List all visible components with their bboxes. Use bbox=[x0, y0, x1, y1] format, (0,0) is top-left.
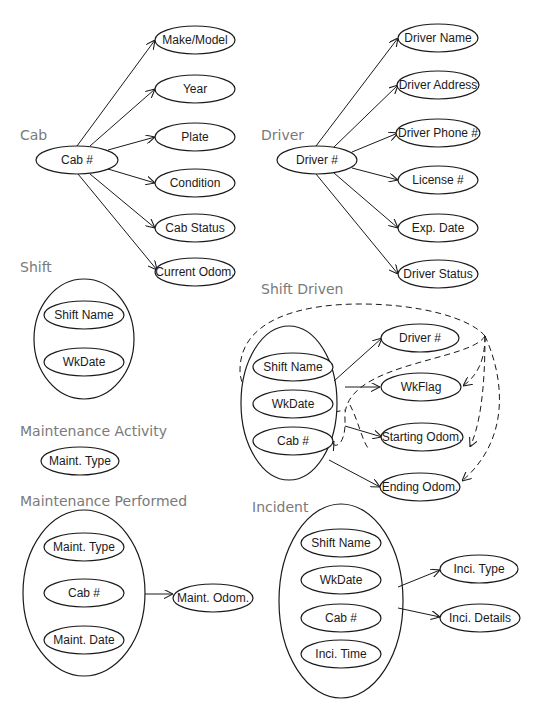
attr-label: Inci. Details bbox=[449, 611, 511, 625]
cab-attr-node: Cab Status bbox=[155, 214, 235, 242]
cab-attr-node: Condition bbox=[155, 169, 235, 197]
maintenance-performed-key-node: Maint. Type bbox=[44, 533, 124, 561]
maintenance-performed-key-node: Maint. Date bbox=[44, 626, 124, 654]
incident-key-node: Cab # bbox=[301, 604, 381, 632]
driver-attr-node: Driver Status bbox=[398, 260, 478, 288]
attr-label: Maint. Odom. bbox=[177, 591, 249, 605]
cab-key-label: Cab # bbox=[61, 153, 93, 167]
attr-label: Starting Odom. bbox=[382, 430, 463, 444]
key-label: WkDate bbox=[320, 573, 363, 587]
cab-section: Cab Cab # Make/Model Year Plate Condit bbox=[20, 26, 235, 286]
maintenance-activity-title: Maintenance Activity bbox=[20, 423, 167, 439]
key-label: Cab # bbox=[68, 586, 100, 600]
cab-title: Cab bbox=[20, 127, 47, 143]
key-label: Shift Name bbox=[311, 536, 371, 550]
driver-attr-node: Exp. Date bbox=[398, 214, 478, 242]
shift-driven-attr-node: Starting Odom. bbox=[381, 423, 463, 451]
incident-section: Incident Shift Name WkDate Cab # Inci. T… bbox=[252, 499, 520, 698]
key-label: Shift Name bbox=[263, 360, 323, 374]
shift-driven-attr-node: Driver # bbox=[381, 324, 459, 352]
cab-attr-node: Year bbox=[155, 75, 235, 103]
attr-label: Year bbox=[183, 82, 207, 96]
driver-attr-node: Driver Name bbox=[398, 24, 478, 52]
shift-driven-key-node: WkDate bbox=[253, 390, 333, 418]
shift-key-node: WkDate bbox=[44, 348, 124, 376]
driver-key-node: Driver # bbox=[277, 146, 357, 174]
key-label: WkDate bbox=[63, 355, 106, 369]
driver-title: Driver bbox=[261, 127, 304, 143]
shift-title: Shift bbox=[20, 259, 52, 275]
shift-driven-attr-node: Ending Odom. bbox=[380, 473, 460, 501]
maintenance-performed-section: Maintenance Performed Maint. Type Cab # … bbox=[20, 493, 253, 676]
dependency-diagram: Cab Cab # Make/Model Year Plate Condit bbox=[0, 0, 538, 706]
driver-attr-node: Driver Address bbox=[397, 71, 479, 99]
maintenance-performed-attr-node: Maint. Odom. bbox=[173, 584, 253, 612]
cab-key-node: Cab # bbox=[36, 146, 118, 174]
driver-attr-node: License # bbox=[398, 166, 478, 194]
shift-driven-attr-node: WkFlag bbox=[381, 373, 461, 401]
attr-label: License # bbox=[412, 173, 464, 187]
shift-driven-title: Shift Driven bbox=[261, 281, 343, 297]
driver-section: Driver Driver # Driver Name Driver Addre… bbox=[261, 24, 480, 288]
incident-attr-node: Inci. Details bbox=[440, 604, 520, 632]
attr-label: Driver Phone # bbox=[398, 126, 478, 140]
driver-attr-node: Driver Phone # bbox=[396, 119, 480, 147]
incident-key-node: Shift Name bbox=[301, 529, 381, 557]
incident-attr-node: Inci. Type bbox=[440, 555, 518, 583]
attr-label: Inci. Type bbox=[453, 562, 504, 576]
key-label: WkDate bbox=[272, 397, 315, 411]
key-label: Maint. Type bbox=[49, 454, 111, 468]
attr-label: Cab Status bbox=[165, 221, 224, 235]
shift-section: Shift Shift Name WkDate bbox=[20, 259, 134, 399]
maintenance-activity-section: Maintenance Activity Maint. Type bbox=[20, 423, 167, 475]
driver-key-label: Driver # bbox=[296, 153, 338, 167]
key-label: Shift Name bbox=[54, 308, 114, 322]
attr-label: Driver Address bbox=[399, 78, 478, 92]
shift-composite-key bbox=[34, 279, 134, 399]
incident-title: Incident bbox=[252, 499, 309, 515]
key-label: Cab # bbox=[277, 434, 309, 448]
maintenance-performed-title: Maintenance Performed bbox=[20, 493, 187, 509]
attr-label: Plate bbox=[181, 130, 209, 144]
attr-label: Driver # bbox=[399, 331, 441, 345]
cab-attr-node: Current Odom. bbox=[155, 258, 235, 286]
incident-edges bbox=[398, 570, 440, 617]
shift-driven-section: Shift Driven Shift Name WkDate C bbox=[240, 281, 499, 501]
attr-label: WkFlag bbox=[401, 380, 442, 394]
key-label: Cab # bbox=[325, 611, 357, 625]
shift-key-node: Shift Name bbox=[44, 301, 124, 329]
attr-label: Make/Model bbox=[162, 33, 227, 47]
shift-driven-key-node: Shift Name bbox=[253, 353, 333, 381]
attr-label: Exp. Date bbox=[412, 221, 465, 235]
attr-label: Driver Name bbox=[404, 31, 472, 45]
attr-label: Condition bbox=[170, 176, 221, 190]
cab-attr-node: Plate bbox=[155, 123, 235, 151]
maintenance-activity-key-node: Maint. Type bbox=[41, 447, 119, 475]
shift-driven-key-node: Cab # bbox=[253, 427, 333, 455]
key-label: Maint. Date bbox=[53, 633, 115, 647]
incident-key-node: Inci. Time bbox=[301, 640, 381, 668]
attr-label: Ending Odom. bbox=[382, 480, 459, 494]
maintenance-performed-key-node: Cab # bbox=[44, 579, 124, 607]
key-label: Inci. Time bbox=[315, 647, 367, 661]
key-label: Maint. Type bbox=[53, 540, 115, 554]
incident-key-node: WkDate bbox=[301, 566, 381, 594]
attr-label: Driver Status bbox=[403, 267, 472, 281]
attr-label: Current Odom. bbox=[155, 265, 234, 279]
cab-attr-node: Make/Model bbox=[155, 26, 235, 54]
